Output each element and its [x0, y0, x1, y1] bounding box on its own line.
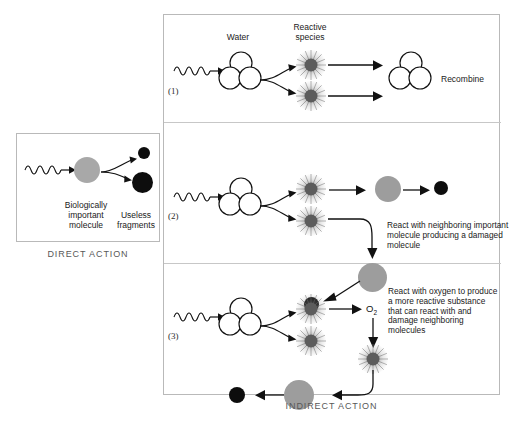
- pathway-2-top-arrow-1: [329, 184, 373, 196]
- section-divider-1: [164, 122, 501, 123]
- biological-molecule-label: Biologically important molecule: [53, 200, 119, 230]
- reactive-species-1b: [295, 80, 327, 112]
- pathway-3-curved-arrow: [313, 370, 385, 404]
- direct-action-panel: Biologically important molecule Useless …: [16, 133, 160, 242]
- reactive-species-2a: [295, 173, 327, 205]
- water-molecule-icon-2: [219, 177, 263, 223]
- molecule-label-line-1: Biologically: [53, 200, 119, 210]
- damaged-molecule-2: [375, 176, 401, 202]
- water-molecule-icon-1: [219, 51, 263, 97]
- pathway-1-outcome-label: Recombine: [441, 74, 501, 84]
- molecule-label-line-2: important: [53, 210, 119, 220]
- oxygen-subscript: 2: [373, 309, 377, 316]
- damaged-fragment-2-top: [434, 181, 448, 195]
- water-column-header: Water: [212, 32, 264, 42]
- useless-fragment-large: [132, 172, 153, 193]
- reactive-species-header-line-1: Reactive: [281, 22, 339, 32]
- molecule-label-line-3: molecule: [53, 220, 119, 230]
- recombined-water-molecule-icon: [389, 51, 433, 97]
- pathway-3-oxygen-arrow: [329, 303, 371, 315]
- reactive-species-3b: [295, 325, 327, 357]
- indirect-action-panel: Water Reactive species (1): [163, 14, 500, 395]
- useless-fragment-small: [138, 147, 150, 159]
- pathway-3-number: (3): [168, 331, 179, 341]
- direct-action-caption: DIRECT ACTION: [16, 249, 160, 259]
- reactive-species-1a: [295, 49, 327, 81]
- fragments-label-line-2: fragments: [111, 220, 161, 230]
- reactive-species-column-header: Reactive species: [281, 22, 339, 42]
- water-molecule-icon-3: [219, 297, 263, 343]
- recombination-arrows-1: [328, 60, 394, 104]
- reactive-species-3a: [295, 293, 327, 325]
- useless-fragments-label: Useless fragments: [111, 210, 161, 230]
- fragments-label-line-1: Useless: [111, 210, 161, 220]
- pathway-2-curved-arrow: [328, 213, 390, 269]
- radiation-wave-icon-direct: [24, 160, 80, 180]
- indirect-action-caption: INDIRECT ACTION: [163, 401, 500, 411]
- reactive-species-2b: [295, 205, 327, 237]
- reactive-species-header-line-2: species: [281, 32, 339, 42]
- pathway-3-outcome-label: React with oxygen to produce a more reac…: [388, 287, 498, 336]
- pathway-2-number: (2): [168, 211, 179, 221]
- pathway-2-outcome-label: React with neighboring important molecul…: [387, 221, 511, 250]
- pathway-3-damage-arrow: [248, 388, 288, 402]
- pathway-2-top-arrow-2: [403, 184, 437, 196]
- biological-molecule-shape: [74, 157, 100, 183]
- oxygen-label: O2: [366, 303, 377, 316]
- pathway-1-number: (1): [168, 86, 179, 96]
